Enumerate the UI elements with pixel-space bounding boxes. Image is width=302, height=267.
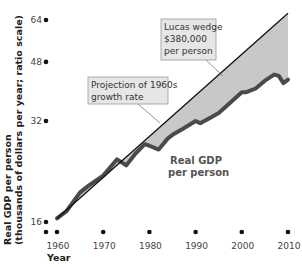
y-axis-ticks: 16324864 [31, 15, 49, 227]
gdp-series-label-line2: per person [168, 167, 229, 178]
y-tick-dot [44, 18, 49, 23]
x-tick-dot [193, 230, 198, 235]
gdp-series-label-line1: Real GDP [170, 155, 222, 166]
y-axis-title-line1: Real GDP per person [2, 134, 13, 245]
y-tick-label: 32 [31, 116, 42, 126]
x-tick-dot [286, 230, 291, 235]
lucas-wedge-label: Lucas wedge $380,000 per person [161, 19, 223, 60]
y-tick-label: 48 [31, 57, 43, 67]
x-tick-label: 2000 [231, 241, 254, 251]
x-axis-title: Year [46, 252, 71, 263]
x-tick-label: 1980 [139, 241, 162, 251]
chart-canvas: 16324864 196019701980199020002010 Lucas … [0, 0, 302, 267]
x-axis-ticks: 196019701980199020002010 [44, 230, 301, 251]
x-tick-label: 2010 [278, 241, 301, 251]
lucas-label-line1: Lucas wedge [164, 22, 223, 32]
x-tick-label: 1970 [93, 241, 116, 251]
x-tick-dot [101, 230, 106, 235]
projection-label-line1: Projection of 1960s [91, 80, 178, 90]
x-tick-dot [147, 230, 152, 235]
lucas-label-line2: $380,000 [164, 34, 207, 44]
origin-dot [44, 230, 49, 235]
projection-label-line2: growth rate [91, 92, 144, 102]
y-tick-dot [44, 119, 49, 124]
projection-label: Projection of 1960s growth rate [88, 77, 178, 104]
projection-callout-pointer [138, 104, 160, 123]
x-tick-dot [55, 230, 60, 235]
lucas-callout-pointer [205, 59, 223, 76]
x-tick-dot [240, 230, 245, 235]
y-tick-label: 16 [31, 217, 43, 227]
x-tick-label: 1990 [185, 241, 208, 251]
lucas-label-line3: per person [164, 46, 213, 56]
y-axis-title-line2: (thousands of dollars per year; ratio sc… [13, 15, 24, 245]
y-tick-label: 64 [31, 15, 43, 25]
y-tick-dot [44, 60, 49, 65]
y-tick-dot [44, 220, 49, 225]
x-tick-label: 1960 [47, 241, 70, 251]
